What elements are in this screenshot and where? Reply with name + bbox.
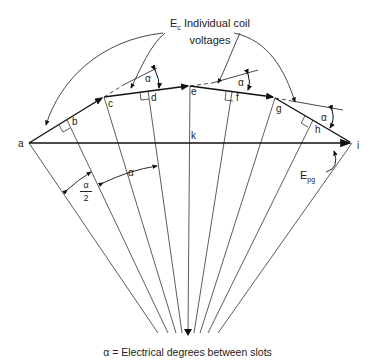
alpha-label-2: α bbox=[238, 78, 244, 88]
alpha-half-numerator: α bbox=[80, 180, 92, 190]
point-f-label: f bbox=[236, 93, 239, 103]
point-i-label: i bbox=[357, 141, 359, 151]
point-e-label: e bbox=[191, 87, 197, 97]
title-text: Individual coil bbox=[184, 17, 250, 29]
epg-subscript: pg bbox=[307, 176, 315, 183]
point-b-label: b bbox=[72, 117, 78, 127]
alpha-half-label: α 2 bbox=[80, 180, 92, 203]
point-c-label: c bbox=[108, 99, 113, 109]
alpha-label-slot: α bbox=[128, 168, 134, 178]
title-line2: voltages bbox=[190, 34, 231, 46]
phasor-diagram bbox=[0, 0, 375, 363]
epg-label: Epg bbox=[300, 170, 315, 183]
point-h-label: h bbox=[315, 125, 321, 135]
point-d-label: d bbox=[151, 93, 157, 103]
alpha-half-denominator: 2 bbox=[80, 193, 92, 203]
point-k-label: k bbox=[191, 131, 196, 141]
caption: α = Electrical degrees between slots bbox=[0, 346, 375, 358]
point-g-label: g bbox=[276, 104, 282, 114]
alpha-label-3: α bbox=[321, 113, 327, 123]
point-a-label: a bbox=[18, 139, 24, 149]
title-subscript: c bbox=[177, 24, 181, 31]
alpha-label-1: α bbox=[145, 74, 151, 84]
coil-voltage-title: Ec Individual coil voltages bbox=[150, 17, 270, 47]
